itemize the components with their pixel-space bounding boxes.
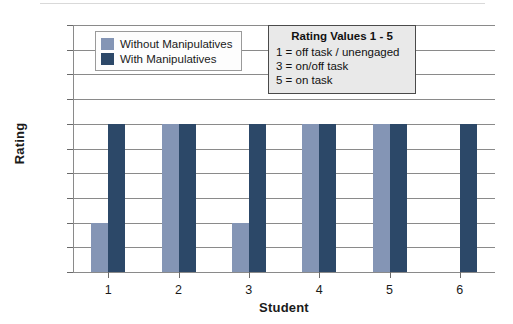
gridline — [73, 198, 495, 199]
gridline — [73, 124, 495, 125]
y-axis-title: Rating — [12, 104, 27, 184]
bar — [249, 124, 266, 272]
x-tick-mark — [179, 272, 180, 278]
x-axis-line — [73, 272, 495, 273]
x-tick-label: 4 — [304, 283, 334, 297]
x-axis-title: Student — [73, 300, 495, 315]
legend-swatch-icon — [101, 53, 114, 65]
legend-entry: Without Manipulatives — [101, 36, 233, 51]
x-tick-label: 3 — [234, 283, 264, 297]
legend-label: With Manipulatives — [120, 53, 217, 65]
y-tick-mark — [67, 173, 73, 174]
x-tick-mark — [249, 272, 250, 278]
y-tick-mark — [67, 223, 73, 224]
x-tick-label: 1 — [93, 283, 123, 297]
bar — [108, 124, 125, 272]
bar — [232, 223, 249, 272]
gridline — [73, 149, 495, 150]
x-tick-label: 2 — [164, 283, 194, 297]
bar — [179, 124, 196, 272]
annotation-lines: 1 = off task / unengaged3 = on/off task5… — [276, 45, 408, 87]
y-tick-mark — [67, 198, 73, 199]
x-tick-mark — [108, 272, 109, 278]
bar — [302, 124, 319, 272]
gridline — [73, 99, 495, 100]
bar — [460, 124, 477, 272]
rating-values-annotation: Rating Values 1 - 5 1 = off task / uneng… — [268, 25, 416, 94]
annotation-line: 1 = off task / unengaged — [276, 45, 408, 59]
y-tick-mark — [67, 50, 73, 51]
bar — [162, 124, 179, 272]
x-tick-label: 6 — [445, 283, 475, 297]
chart-legend: Without ManipulativesWith Manipulatives — [95, 31, 242, 71]
legend-entry: With Manipulatives — [101, 51, 233, 66]
y-tick-mark — [67, 25, 73, 26]
gridline — [73, 173, 495, 174]
annotation-title: Rating Values 1 - 5 — [276, 30, 408, 42]
gridline — [73, 223, 495, 224]
x-tick-mark — [460, 272, 461, 278]
x-tick-mark — [390, 272, 391, 278]
legend-label: Without Manipulatives — [120, 38, 233, 50]
y-tick-mark — [67, 247, 73, 248]
y-tick-mark — [67, 124, 73, 125]
y-tick-mark — [67, 272, 73, 273]
x-tick-label: 5 — [375, 283, 405, 297]
y-tick-mark — [67, 74, 73, 75]
bar — [390, 124, 407, 272]
bar-chart-figure: Rating Student 5.04.54.03.53.02.52.01.51… — [0, 0, 513, 324]
x-tick-mark — [319, 272, 320, 278]
y-tick-mark — [67, 149, 73, 150]
legend-swatch-icon — [101, 38, 114, 50]
bar — [373, 124, 390, 272]
bar — [91, 223, 108, 272]
bar — [319, 124, 336, 272]
bar-group: 6 — [443, 25, 477, 272]
gridline — [73, 247, 495, 248]
annotation-line: 3 = on/off task — [276, 59, 408, 73]
scan-artifact-line — [40, 3, 485, 4]
annotation-line: 5 = on task — [276, 73, 408, 87]
y-tick-mark — [67, 99, 73, 100]
